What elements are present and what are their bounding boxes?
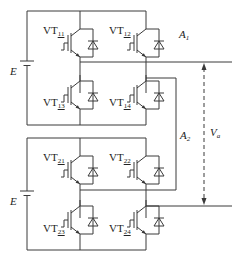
- label-a2: A2: [180, 130, 190, 141]
- igbt-vt24: [127, 200, 164, 240]
- label-vt23: VT23: [43, 223, 65, 234]
- label-vt21: VT21: [43, 152, 65, 163]
- igbt-vt21: [61, 150, 98, 190]
- label-vt14: VT14: [109, 97, 131, 108]
- label-vt24: VT24: [109, 223, 131, 234]
- label-va: Va: [210, 127, 220, 138]
- label-vt22: VT22: [109, 152, 131, 163]
- battery-e-top: [20, 61, 34, 66]
- igbt-vt14: [127, 75, 164, 115]
- igbt-vt13: [61, 75, 98, 115]
- igbt-vt11: [61, 23, 98, 63]
- igbt-vt12: [127, 23, 164, 63]
- label-vt13: VT13: [43, 97, 65, 108]
- va-voltage-arrow: [202, 63, 207, 205]
- label-a1: A1: [179, 29, 189, 40]
- label-vt12: VT12: [109, 25, 131, 36]
- igbt-vt22: [127, 150, 164, 190]
- label-e-bottom: E: [10, 196, 17, 207]
- label-e-top: E: [10, 66, 17, 77]
- label-vt11: VT11: [43, 25, 64, 36]
- battery-e-bottom: [20, 191, 34, 196]
- igbt-vt23: [61, 200, 98, 240]
